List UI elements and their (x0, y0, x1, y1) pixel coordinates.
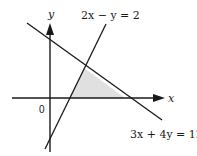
x-axis-arrow-icon (153, 94, 165, 102)
y-axis-arrow-icon (46, 23, 54, 35)
line-3x-plus-4y-eq-12 (27, 23, 162, 120)
y-axis-label: y (47, 8, 55, 21)
origin-label: 0 (39, 104, 45, 115)
x-axis-label: x (168, 92, 175, 105)
graph-canvas: y x 0 2x − y = 2 3x + 4y = 12 (0, 0, 197, 156)
line-label-3x-plus-4y: 3x + 4y = 12 (130, 128, 197, 141)
line-label-2x-minus-y: 2x − y = 2 (81, 9, 140, 22)
